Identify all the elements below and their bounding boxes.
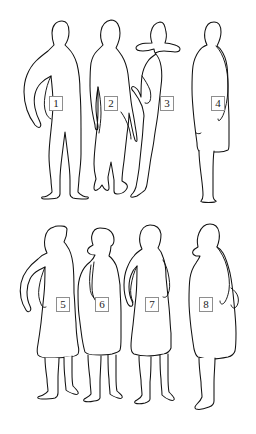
figure-7-silhouette [124, 225, 174, 404]
figure-sheet: 1 2 3 4 5 6 7 8 [0, 0, 256, 434]
figure-label-5[interactable]: 5 [56, 297, 70, 312]
figure-label-7[interactable]: 7 [145, 297, 159, 312]
figure-4-silhouette [192, 22, 229, 203]
figure-label-1[interactable]: 1 [49, 96, 63, 111]
figure-label-4[interactable]: 4 [211, 96, 225, 111]
figure-5-silhouette [20, 226, 79, 399]
figure-label-2[interactable]: 2 [104, 96, 118, 111]
figure-label-6[interactable]: 6 [95, 297, 109, 312]
figure-label-3[interactable]: 3 [160, 96, 174, 111]
figure-label-8[interactable]: 8 [199, 297, 213, 312]
figures-illustration [0, 0, 256, 434]
figure-8-silhouette [189, 224, 238, 409]
figure-6-silhouette [78, 228, 122, 402]
